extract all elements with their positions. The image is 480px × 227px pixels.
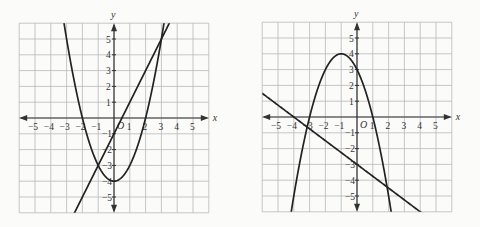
arrow-down-icon — [111, 205, 117, 213]
y-tick-label: −1 — [102, 129, 112, 139]
coordinate-plane-right: xyO−5−4−3−2−11234554321−1−2−3−4−5 — [240, 0, 480, 227]
arrow-up-icon — [354, 22, 360, 30]
x-tick-label: 3 — [158, 122, 163, 132]
y-tick-label: 2 — [349, 81, 354, 91]
arrow-right-icon — [201, 115, 209, 121]
x-tick-label: −1 — [334, 121, 344, 131]
y-tick-label: 3 — [106, 66, 111, 76]
y-tick-label: 2 — [106, 82, 111, 92]
x-tick-label: 4 — [174, 122, 179, 132]
x-tick-label: −3 — [60, 122, 70, 132]
y-tick-label: 5 — [106, 35, 111, 45]
arrow-left-icon — [262, 114, 270, 120]
arrow-up-icon — [111, 23, 117, 31]
x-tick-label: 4 — [417, 121, 422, 131]
x-tick-label: 5 — [190, 122, 195, 132]
axes — [19, 23, 209, 213]
y-tick-label: −4 — [345, 176, 355, 186]
arrow-left-icon — [19, 115, 27, 121]
graph-right: xyO−5−4−3−2−11234554321−1−2−3−4−5 — [240, 0, 480, 227]
y-axis-label: y — [353, 8, 359, 19]
coordinate-plane-left: xyO−5−4−3−2−11234554321−1−2−3−4−5 — [0, 0, 240, 227]
x-axis-label: x — [455, 111, 461, 122]
x-tick-label: −1 — [91, 122, 101, 132]
y-tick-label: 1 — [106, 98, 111, 108]
y-tick-label: 5 — [349, 34, 354, 44]
graph-left: xyO−5−4−3−2−11234554321−1−2−3−4−5 — [0, 0, 240, 227]
axes — [262, 22, 452, 212]
y-tick-label: −2 — [345, 144, 355, 154]
x-tick-label: −4 — [287, 121, 297, 131]
x-tick-label: −5 — [28, 122, 38, 132]
x-tick-label: 2 — [386, 121, 391, 131]
y-axis-label: y — [110, 9, 116, 20]
y-tick-label: 3 — [349, 65, 354, 75]
x-tick-label: −5 — [271, 121, 281, 131]
x-tick-label: 3 — [401, 121, 406, 131]
y-tick-label: 1 — [349, 97, 354, 107]
arrow-right-icon — [444, 114, 452, 120]
origin-label: O — [360, 119, 367, 130]
y-tick-label: −1 — [345, 128, 355, 138]
x-tick-label: −4 — [44, 122, 54, 132]
x-tick-label: −2 — [318, 121, 328, 131]
y-tick-label: 4 — [106, 50, 111, 60]
x-tick-label: 5 — [433, 121, 438, 131]
y-tick-label: −3 — [102, 161, 112, 171]
x-axis-label: x — [212, 112, 218, 123]
arrow-down-icon — [354, 204, 360, 212]
x-tick-label: 1 — [127, 122, 132, 132]
y-tick-label: −5 — [102, 193, 112, 203]
y-tick-label: −5 — [345, 192, 355, 202]
